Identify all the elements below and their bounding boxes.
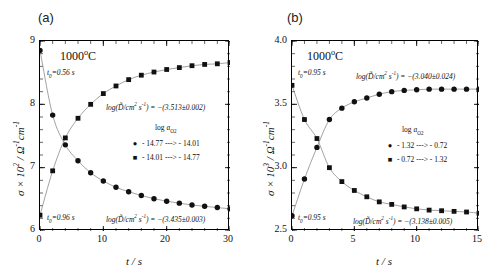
panel-b-temperature-label: 1000oC (307, 48, 343, 64)
legend-square-marker-icon: ■ (385, 155, 395, 164)
panel-a-dlog-upper: log(D̃/cm2 s-1) = −(3.513±0.002) (106, 101, 205, 112)
panel-b: (b) σ × 103 / Ω-1cm-1 t / s 4.0 3.5 3.0 … (249, 0, 498, 279)
panel-a-xtick-3: 30 (218, 233, 238, 244)
panel-a-temperature-label: 1000oC (60, 48, 96, 64)
panel-b-legend-item-0[interactable]: ● - 1.32 ---> - 0.72 (385, 141, 447, 150)
legend-circle-marker-icon: ● (130, 139, 140, 148)
panel-a-legend-item-0[interactable]: ● - 14.77 ---> - 14.01 (130, 139, 200, 148)
panel-a-ytick-1: 8 (14, 97, 35, 108)
panel-a-ytick-2: 7 (14, 160, 35, 171)
panel-a-t0-upper: t0=0.56 s (47, 68, 75, 79)
panel-b-legend-label-1: - 0.72 ---> - 1.32 (397, 155, 447, 164)
panel-b-legend-label-0: - 1.32 ---> - 0.72 (397, 141, 447, 150)
panel-a: (a) σ × 102 / Ω-1cm-1 t / s 9 8 7 6 0 10… (0, 0, 249, 279)
panel-b-legend-title: log aO2 (402, 125, 423, 136)
panel-b-t0-lower: t0=0.95 s (298, 213, 326, 224)
panel-b-ytick-0: 4.0 (260, 34, 287, 45)
panel-b-xtick-3: 15 (467, 233, 487, 244)
panel-a-xtick-1: 10 (92, 233, 112, 244)
panel-b-tag: (b) (287, 10, 303, 25)
panel-b-xtick-1: 5 (343, 233, 363, 244)
panel-a-dlog-lower: log(D̃/cm2 s-1) = −(3.435±0.003) (106, 213, 205, 224)
panel-a-xtick-2: 20 (155, 233, 175, 244)
panel-b-ytick-1: 3.5 (260, 97, 287, 108)
figure-container: (a) σ × 102 / Ω-1cm-1 t / s 9 8 7 6 0 10… (0, 0, 498, 279)
panel-a-y-axis-label: σ × 102 / Ω-1cm-1 (12, 121, 26, 196)
panel-b-ytick-2: 3.0 (260, 160, 287, 171)
legend-circle-marker-icon: ● (385, 141, 395, 150)
panel-b-dlog-upper: log(D̃/cm2 s-1) = −(3.040±0.024) (356, 70, 455, 81)
panel-b-t0-upper: t0=0.95 s (298, 68, 326, 79)
panel-b-x-axis-label: t / s (339, 255, 429, 267)
panel-a-x-axis-label: t / s (89, 255, 179, 267)
panel-b-y-axis-label: σ × 103 / Ω-1cm-1 (262, 121, 276, 196)
panel-a-legend-title: log aO2 (155, 123, 176, 134)
panel-a-t0-lower: t0=0.96 s (47, 213, 75, 224)
panel-b-xtick-0: 0 (281, 233, 301, 244)
panel-b-xtick-2: 10 (405, 233, 425, 244)
legend-square-marker-icon: ■ (130, 153, 140, 162)
panel-a-tag: (a) (38, 10, 54, 25)
panel-a-xtick-0: 0 (29, 233, 49, 244)
panel-b-dlog-lower: log(D̃/cm2 s-1) = −(3.138±0.005) (353, 215, 452, 226)
panel-a-legend-label-1: - 14.01 ---> - 14.77 (142, 153, 200, 162)
panel-b-legend-item-1[interactable]: ■ - 0.72 ---> - 1.32 (385, 155, 447, 164)
panel-a-legend-item-1[interactable]: ■ - 14.01 ---> - 14.77 (130, 153, 200, 162)
panel-a-legend-label-0: - 14.77 ---> - 14.01 (142, 139, 200, 148)
panel-a-ytick-0: 9 (14, 34, 35, 45)
